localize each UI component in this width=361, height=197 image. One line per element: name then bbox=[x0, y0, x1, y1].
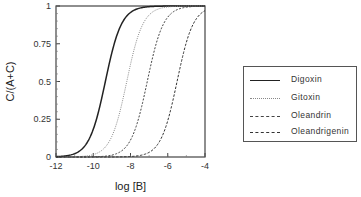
curve-digoxin bbox=[56, 6, 205, 157]
curve-oleandrin bbox=[56, 6, 205, 157]
y-tick-label: 0.75 bbox=[33, 39, 51, 49]
x-tick-label: -10 bbox=[87, 161, 100, 171]
x-axis-title: log [B] bbox=[115, 180, 146, 192]
legend-label: Oleandrigenin bbox=[291, 126, 349, 136]
legend-item-gitoxin: Gitoxin bbox=[244, 91, 356, 105]
legend-item-oleandrin: Oleandrin bbox=[244, 109, 356, 123]
dashed-line-icon bbox=[250, 132, 280, 133]
dotted-line-icon bbox=[250, 98, 280, 99]
y-tick-label: 1 bbox=[46, 1, 51, 11]
legend-label: Oleandrin bbox=[291, 110, 331, 120]
legend: Digoxin Gitoxin Oleandrin Oleandrigenin bbox=[243, 66, 357, 142]
plot-area: 00.250.50.751-12-10-8-6-4log [B]C/(A+C) bbox=[4, 1, 209, 192]
legend-item-oleandrigenin: Oleandrigenin bbox=[244, 125, 356, 139]
y-tick-label: 0.5 bbox=[38, 77, 51, 87]
plot-frame bbox=[56, 6, 205, 157]
y-tick-label: 0.25 bbox=[33, 114, 51, 124]
solid-line-icon bbox=[250, 80, 280, 81]
legend-item-digoxin: Digoxin bbox=[244, 73, 356, 87]
curve-oleandrigenin bbox=[56, 11, 205, 157]
fine-dashed-line-icon bbox=[250, 116, 280, 117]
x-tick-label: -8 bbox=[126, 161, 134, 171]
curve-gitoxin bbox=[56, 6, 205, 157]
x-tick-label: -4 bbox=[201, 161, 209, 171]
y-axis-title: C/(A+C) bbox=[4, 61, 16, 101]
x-tick-label: -6 bbox=[164, 161, 172, 171]
legend-label: Digoxin bbox=[291, 74, 322, 84]
x-tick-label: -12 bbox=[49, 161, 62, 171]
legend-label: Gitoxin bbox=[291, 92, 320, 102]
